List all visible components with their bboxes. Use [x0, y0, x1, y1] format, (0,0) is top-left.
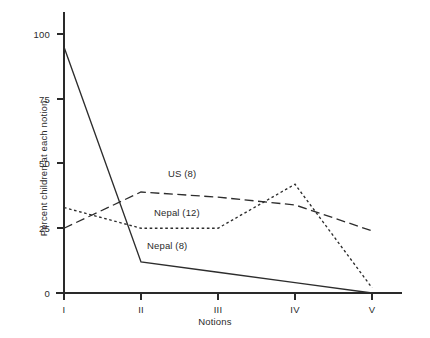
series-label-nepal-8: Nepal (8) [147, 240, 187, 251]
y-axis-title: Percent children at each notion [38, 79, 49, 259]
x-tick-label-iv: IV [290, 304, 299, 315]
y-tick-label-0: 0 [16, 288, 50, 299]
x-tick-label-ii: II [138, 304, 144, 315]
x-axis-title: Notions [0, 316, 430, 327]
figure-container: 100 75 50 25 0 I II III IV V Percent chi… [0, 0, 430, 338]
x-tick-label-iii: III [214, 304, 223, 315]
series-label-nepal-12: Nepal (12) [154, 207, 200, 218]
x-tick-label-v: V [369, 304, 376, 315]
x-tick-label-i: I [63, 304, 66, 315]
series-line-nepal-8 [64, 47, 372, 293]
y-tick-label-100: 100 [16, 29, 50, 40]
y-tick-marks [57, 34, 64, 293]
x-tick-marks [64, 293, 372, 300]
series-label-us-8: US (8) [168, 168, 196, 179]
line-chart-plot [0, 0, 430, 338]
